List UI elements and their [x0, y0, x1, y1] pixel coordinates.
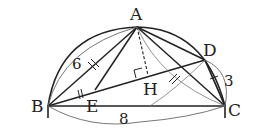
length-dc: 3: [224, 72, 234, 90]
label-b: B: [31, 96, 44, 116]
label-d: D: [203, 40, 217, 60]
geometry-diagram: A B C D E H 6 8 3: [0, 0, 256, 138]
segment-ad: [137, 27, 205, 60]
segment-dc: [205, 60, 225, 106]
arc-bc-measure: [48, 106, 225, 124]
label-a: A: [129, 4, 143, 24]
length-bc: 8: [119, 110, 129, 128]
length-ab: 6: [72, 55, 82, 73]
label-h: H: [143, 79, 158, 99]
right-angle-marker: [134, 68, 142, 78]
label-c: C: [228, 100, 241, 120]
tick-ac: [169, 74, 180, 84]
arc-d-compass: [150, 60, 205, 106]
label-e: E: [86, 96, 98, 116]
segment-ah-dashed: [137, 27, 148, 75]
